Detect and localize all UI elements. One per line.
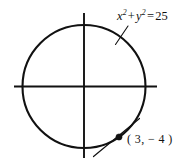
equation-operator-plus: + [127,9,136,23]
equation-label: x2+y2=25 [117,10,168,23]
point-marker [116,134,122,140]
equation-right-hand-side: 25 [155,9,168,23]
equation-operator-equals: = [146,9,155,23]
circle-diagram-figure: x2+y2=25 ( 3, − 4 ) [0,0,182,165]
point-coordinate-label: ( 3, − 4 ) [127,133,173,145]
